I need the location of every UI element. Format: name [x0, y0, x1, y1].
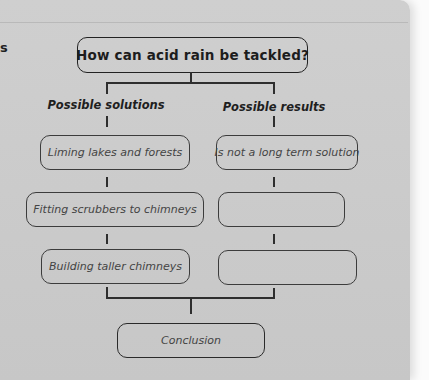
connector-line: [273, 116, 275, 127]
result-box-2-empty: [218, 192, 345, 227]
column-heading-solutions: Possible solutions: [47, 98, 164, 112]
page-rule-line: [0, 22, 408, 23]
connector-line: [106, 177, 108, 187]
question-box: How can acid rain be tackled?: [77, 37, 308, 73]
cut-off-margin-text: s: [0, 40, 8, 55]
result-box-1: Is not a long term solution: [216, 135, 358, 170]
solution-text: Building taller chimneys: [49, 260, 182, 273]
question-text: How can acid rain be tackled?: [76, 47, 309, 63]
connector-line: [106, 82, 274, 84]
result-box-3-empty: [218, 250, 357, 285]
textbook-page: s How can acid rain be tackled? Possible…: [0, 0, 410, 380]
connector-line: [273, 234, 275, 244]
connector-line: [273, 82, 275, 94]
conclusion-text: Conclusion: [161, 334, 221, 347]
connector-line: [106, 234, 108, 244]
column-heading-results: Possible results: [223, 100, 326, 114]
solution-box-1: Liming lakes and forests: [40, 135, 190, 170]
result-text: Is not a long term solution: [215, 146, 360, 159]
connector-line: [106, 116, 108, 127]
solution-box-3: Building taller chimneys: [41, 249, 190, 284]
conclusion-box: Conclusion: [117, 323, 265, 358]
solution-text: Liming lakes and forests: [48, 146, 182, 159]
connector-line: [273, 177, 275, 187]
connector-line: [190, 297, 192, 314]
connector-line: [106, 82, 108, 94]
solution-box-2: Fitting scrubbers to chimneys: [26, 192, 204, 227]
solution-text: Fitting scrubbers to chimneys: [33, 203, 197, 216]
